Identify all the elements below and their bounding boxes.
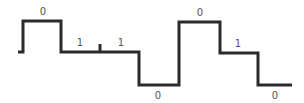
bit-label-3: 0 [155, 90, 161, 101]
waveform-line [18, 21, 292, 85]
bit-label-4: 0 [197, 7, 203, 18]
bit-label-2: 1 [118, 37, 124, 48]
bit-label-1: 1 [77, 37, 83, 48]
bit-label-0: 0 [40, 6, 46, 17]
signal-waveform-diagram: 0 1 1 0 0 1 0 [0, 0, 304, 103]
bit-label-6: 0 [272, 90, 278, 101]
bit-label-5: 1 [235, 38, 241, 49]
